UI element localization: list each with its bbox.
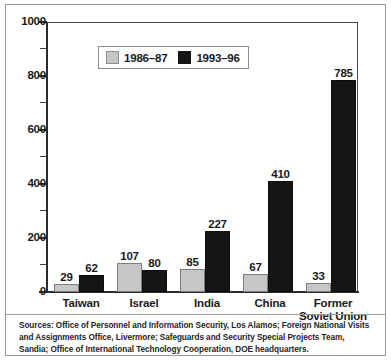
y-label-800: 800 (12, 70, 46, 80)
y-label-400: 400 (12, 178, 46, 188)
x-label-taiwan: Taiwan (54, 297, 108, 310)
y-label-600: 600 (12, 124, 46, 134)
y-label-200: 200 (12, 232, 46, 242)
x-label-china: China (243, 297, 297, 310)
figure-container: 1000 800 600 400 200 0 1986–87 1993–96 2… (0, 0, 391, 360)
footer-divider (6, 314, 385, 315)
x-label-israel: Israel (117, 297, 171, 310)
y-label-0: 0 (12, 286, 46, 296)
source-note: Sources: Office of Personnel and Informa… (19, 320, 373, 357)
x-axis-labels: Taiwan Israel India China Former Soviet … (46, 5, 358, 314)
y-axis: 1000 800 600 400 200 0 (6, 5, 46, 305)
x-label-india: India (180, 297, 234, 310)
bar-chart: 1000 800 600 400 200 0 1986–87 1993–96 2… (6, 5, 385, 314)
y-label-1000: 1000 (12, 16, 46, 26)
x-label-former-soviet-union: Former Soviet Union (298, 297, 368, 322)
